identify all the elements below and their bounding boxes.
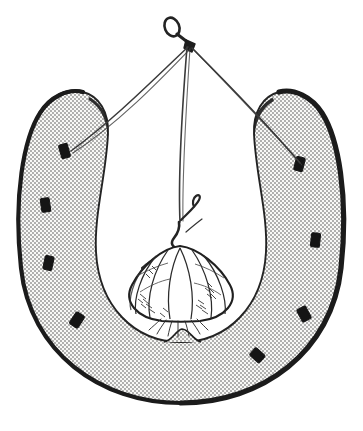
horseshoe-and-garlic-illustration xyxy=(0,0,363,431)
nail-hole xyxy=(310,233,320,248)
illustration-canvas: Garlic bulb hanging from a nail inside a… xyxy=(0,0,363,431)
nail-hole xyxy=(40,197,51,212)
